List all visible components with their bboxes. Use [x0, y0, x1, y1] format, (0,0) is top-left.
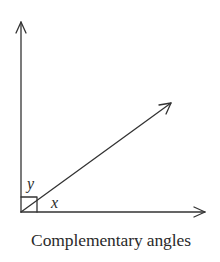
angle-label-x: x — [50, 194, 58, 211]
angle-label-y: y — [25, 175, 35, 193]
diagonal-ray — [21, 103, 171, 212]
complementary-angles-diagram: y x — [0, 0, 220, 262]
diagram-caption: Complementary angles — [0, 230, 220, 251]
